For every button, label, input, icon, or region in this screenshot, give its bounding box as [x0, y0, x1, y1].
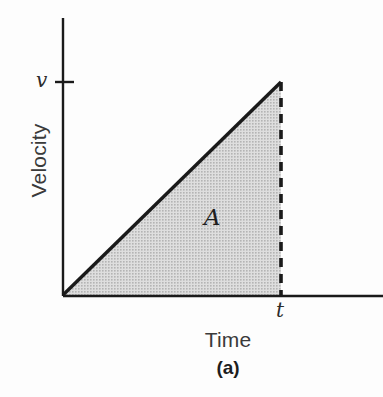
y-axis-tick-label: v	[36, 70, 47, 90]
y-axis-title: Velocity	[28, 101, 49, 221]
shaded-area-label: A	[204, 206, 221, 229]
x-axis-tick-label: t	[276, 300, 284, 320]
panel-label: (a)	[168, 358, 288, 377]
x-axis-title: Time	[168, 329, 288, 350]
velocity-time-figure: Velocity Time (a) v t A	[0, 0, 383, 397]
